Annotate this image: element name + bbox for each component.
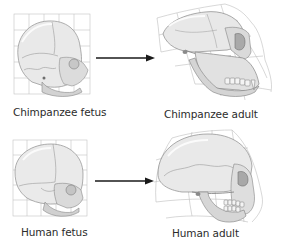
chimpanzee-fetus-panel bbox=[12, 12, 92, 98]
human-fetus-panel bbox=[11, 138, 89, 218]
right-arrow-icon bbox=[96, 53, 156, 63]
human-adult-panel bbox=[152, 126, 292, 228]
human-adult-label: Human adult bbox=[172, 227, 239, 239]
human-fetus-skull-illustration bbox=[11, 138, 89, 218]
human-adult-skull-illustration bbox=[152, 126, 292, 228]
human-fetus-label: Human fetus bbox=[21, 226, 88, 238]
chimpanzee-adult-panel bbox=[155, 0, 292, 104]
chimpanzee-adult-skull-illustration bbox=[155, 0, 292, 104]
right-arrow-icon bbox=[95, 176, 155, 186]
chimpanzee-adult-label: Chimpanzee adult bbox=[164, 108, 258, 120]
chimpanzee-fetus-skull-illustration bbox=[12, 12, 92, 98]
chimpanzee-fetus-label: Chimpanzee fetus bbox=[13, 106, 106, 118]
